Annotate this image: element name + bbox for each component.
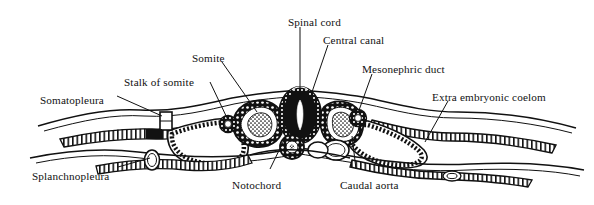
- leader-stalk-of-somite: [210, 82, 228, 120]
- label-central-canal: Central canal: [323, 34, 384, 46]
- leader-somite: [222, 62, 257, 112]
- label-extra-embryonic-coelom: Extra embryonic coelom: [432, 91, 546, 103]
- leader-mesonephric-duct: [358, 74, 372, 113]
- label-spinal-cord: Spinal cord: [288, 16, 341, 28]
- label-somatopleura: Somatopleura: [40, 94, 104, 106]
- somite-left: [232, 100, 283, 147]
- notochord-body: [280, 135, 304, 159]
- label-notochord: Notochord: [232, 179, 281, 191]
- label-splanchnopleura: Splanchnopleura: [32, 170, 109, 182]
- neural-tube: [279, 87, 321, 143]
- mesonephric-duct-left: [220, 116, 237, 133]
- leader-central-canal: [312, 45, 328, 92]
- label-somite: Somite: [192, 52, 225, 64]
- leader-somatopleura: [117, 96, 162, 116]
- label-caudal-aorta: Caudal aorta: [340, 179, 399, 191]
- label-mesonephric-duct: Mesonephric duct: [362, 63, 445, 75]
- splanchnopleura-membrane: [30, 148, 584, 187]
- label-stalk-of-somite: Stalk of somite: [124, 76, 194, 88]
- embryo-section-figure: Spinal cord Central canal Somite Mesonep…: [0, 0, 594, 205]
